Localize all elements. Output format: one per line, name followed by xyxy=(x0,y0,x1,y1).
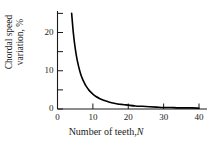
x-tick-label: 0 xyxy=(48,113,68,122)
x-axis-label-variable: N xyxy=(137,126,144,137)
y-tick-label: 0 xyxy=(42,104,54,113)
x-axis-label-text: Number of teeth, xyxy=(69,126,137,137)
chart-figure: 01020 010203040 Chordal speed variation,… xyxy=(0,0,212,146)
y-tick-label: 10 xyxy=(42,66,54,75)
y-axis-ticks xyxy=(58,13,64,109)
x-tick-label: 30 xyxy=(154,113,174,122)
y-axis-label: Chordal speed variation, % xyxy=(4,0,32,90)
x-tick-label: 20 xyxy=(118,113,138,122)
x-tick-label: 10 xyxy=(83,113,103,122)
axis-lines xyxy=(58,11,208,109)
x-tick-label: 40 xyxy=(189,113,209,122)
y-tick-label: 20 xyxy=(42,28,54,37)
x-axis-label: Number of teeth,N xyxy=(0,126,212,138)
y-axis-label-line-2: variation, % xyxy=(15,0,26,90)
data-series-curve xyxy=(72,13,199,108)
y-axis-label-line-1: Chordal speed xyxy=(4,0,15,90)
